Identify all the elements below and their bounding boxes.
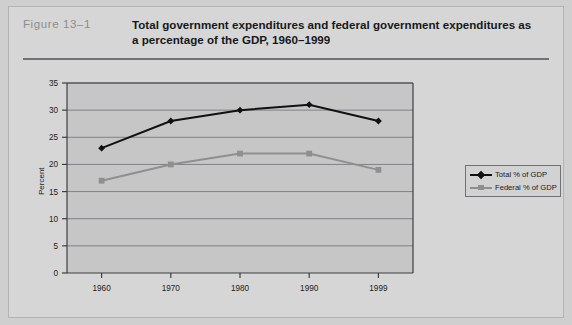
figure-header: Figure 13–1 Total government expenditure…	[9, 7, 563, 61]
y-tick-label: 30	[49, 106, 59, 115]
y-tick-label: 10	[49, 215, 59, 224]
y-tick-label: 5	[53, 242, 58, 251]
data-point-federal	[306, 151, 312, 157]
x-tick-label: 1970	[162, 284, 181, 293]
x-tick-label: 1990	[300, 284, 319, 293]
x-tick-label: 1980	[231, 284, 250, 293]
y-tick-label: 35	[49, 79, 59, 88]
chart-legend: Total % of GDP Federal % of GDP	[465, 165, 561, 197]
legend-marker-square-icon	[470, 183, 492, 192]
y-axis-title: Percent	[37, 167, 46, 195]
data-point-federal	[376, 167, 382, 173]
header-divider	[23, 58, 549, 60]
legend-item-federal: Federal % of GDP	[470, 181, 557, 194]
legend-label-federal: Federal % of GDP	[495, 183, 557, 192]
y-tick-label: 0	[53, 269, 58, 278]
figure-card: Figure 13–1 Total government expenditure…	[8, 6, 564, 318]
legend-marker-diamond-icon	[470, 170, 492, 179]
figure-number-label: Figure 13–1	[23, 18, 91, 30]
y-tick-label: 15	[49, 188, 59, 197]
y-tick-label: 25	[49, 133, 59, 142]
data-point-federal	[99, 178, 105, 184]
legend-label-total: Total % of GDP	[495, 170, 547, 179]
x-tick-label: 1960	[92, 284, 111, 293]
figure-title: Total government expenditures and federa…	[132, 17, 532, 48]
figure-root: Figure 13–1 Total government expenditure…	[0, 0, 572, 325]
data-point-federal	[237, 151, 243, 157]
y-tick-label: 20	[49, 160, 59, 169]
data-point-federal	[168, 162, 174, 168]
legend-item-total: Total % of GDP	[470, 168, 547, 181]
x-tick-label: 1999	[369, 284, 388, 293]
